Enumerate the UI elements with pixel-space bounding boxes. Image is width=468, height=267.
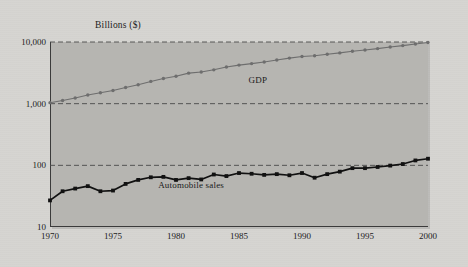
- series-layer: [48, 41, 430, 203]
- data-point: [61, 99, 64, 102]
- data-point: [162, 175, 166, 179]
- data-point: [363, 166, 367, 170]
- data-point: [388, 164, 392, 168]
- data-point: [48, 101, 51, 104]
- data-point: [86, 93, 89, 96]
- data-point: [111, 189, 115, 193]
- data-point: [414, 42, 417, 45]
- series-label-gdp: GDP: [249, 75, 268, 85]
- data-point: [237, 63, 240, 66]
- data-point: [389, 45, 392, 48]
- data-point: [262, 173, 266, 177]
- series-label-automobile-sales: Automobile sales: [158, 180, 224, 190]
- data-point: [174, 74, 177, 77]
- gridlines: [50, 42, 428, 165]
- data-point: [275, 58, 278, 61]
- data-point: [124, 182, 128, 186]
- data-point: [325, 172, 329, 176]
- data-point: [288, 173, 292, 177]
- data-point: [99, 189, 103, 193]
- data-point: [326, 53, 329, 56]
- data-point: [275, 172, 279, 176]
- data-point: [351, 50, 354, 53]
- data-point: [225, 174, 229, 178]
- data-point: [426, 41, 429, 44]
- data-point: [111, 89, 114, 92]
- data-point: [86, 184, 90, 188]
- data-point: [351, 166, 355, 170]
- data-point: [313, 54, 316, 57]
- data-point: [149, 80, 152, 83]
- data-point: [187, 71, 190, 74]
- data-point: [136, 178, 140, 182]
- data-point: [212, 173, 216, 177]
- data-point: [237, 171, 241, 175]
- data-point: [74, 96, 77, 99]
- data-point: [137, 83, 140, 86]
- data-point: [225, 65, 228, 68]
- data-point: [250, 172, 254, 176]
- data-point: [376, 165, 380, 169]
- data-point: [288, 56, 291, 59]
- series-automobile-sales: [48, 157, 430, 202]
- data-point: [61, 189, 65, 193]
- data-point: [414, 159, 418, 163]
- chart-svg: [0, 0, 468, 267]
- data-point: [426, 157, 430, 161]
- series-line: [50, 42, 428, 102]
- data-point: [200, 70, 203, 73]
- data-point: [338, 51, 341, 54]
- data-point: [300, 171, 304, 175]
- data-point: [313, 176, 317, 180]
- data-point: [149, 175, 153, 179]
- data-point: [124, 86, 127, 89]
- data-point: [338, 170, 342, 174]
- data-point: [401, 162, 405, 166]
- data-point: [48, 199, 52, 203]
- data-point: [73, 187, 77, 191]
- data-point: [300, 55, 303, 58]
- data-point: [376, 47, 379, 50]
- data-point: [99, 91, 102, 94]
- data-point: [263, 60, 266, 63]
- chart-container: Billions ($) 10,000 1,000 100 10 1970 19…: [0, 0, 468, 267]
- data-point: [212, 68, 215, 71]
- figure-canvas: Billions ($) 10,000 1,000 100 10 1970 19…: [0, 0, 468, 267]
- data-point: [363, 48, 366, 51]
- data-point: [401, 44, 404, 47]
- data-point: [162, 77, 165, 80]
- data-point: [250, 62, 253, 65]
- series-gdp: [48, 41, 429, 105]
